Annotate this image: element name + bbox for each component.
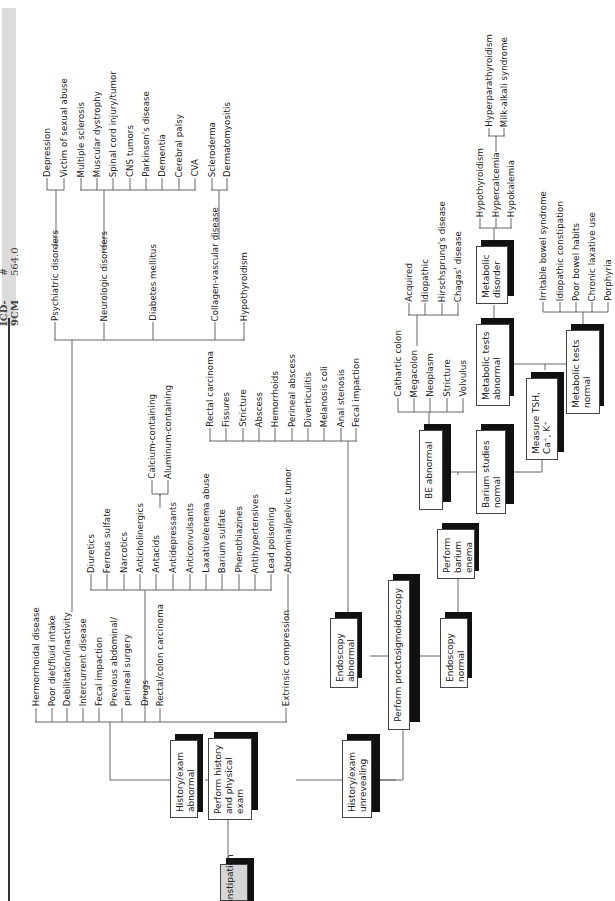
endoscopy-finding-label: Rectal carcinoma — [205, 351, 215, 427]
barium-normal-box[interactable]: Barium studies normal — [476, 430, 514, 514]
collagen-label: Scleroderma — [207, 122, 217, 177]
normal-cause-label: Poor bowel habits — [571, 223, 581, 301]
normal-cause-label: Chronic laxative use — [587, 212, 597, 301]
be-abnormal-box[interactable]: BE abnormal — [419, 430, 453, 510]
cause-label: Extrinsic compression — [281, 610, 291, 706]
metabolic-normal-label: Metabolic tests normal — [566, 330, 600, 414]
metabolic-disorder-box[interactable]: Metabolic disorder — [476, 246, 514, 304]
collagen-label: Dermatomyositis — [222, 102, 232, 177]
constipation-label: Constipation — [220, 864, 248, 901]
cause-label: Previous abdominal/ — [109, 617, 119, 706]
endoscopy-finding-label: Perineal abscess — [287, 354, 297, 427]
drug-label: Antihypertensives — [250, 494, 260, 573]
neurologic-label: CNS tumors — [125, 125, 135, 177]
drug-label: Diuretics — [86, 534, 96, 573]
drug-label: Anticholinergics — [135, 503, 145, 573]
cause-label: Poor diet/fluid intake — [47, 615, 57, 706]
endoscopy-abnormal-label: Endoscopy abnormal — [330, 618, 358, 688]
measure-tsh-box[interactable]: Measure TSH, Ca⁺, K⁺ — [526, 378, 564, 460]
history-abnormal-label: History/exam abnormal — [170, 740, 198, 818]
neurologic-label: Multiple sclerosis — [76, 102, 86, 178]
normal-cause-label: Porphyria — [603, 259, 613, 301]
megacolon-label: Idiopathic — [420, 259, 430, 302]
be-finding-label: Volvulus — [458, 360, 468, 397]
endoscopy-normal-label: Endoscopy normal — [440, 618, 468, 688]
be-finding-label: Cathartic colon — [393, 330, 403, 397]
antacid-label: Calcium-containing — [147, 394, 157, 479]
systemic-label: Hypothyroidism — [239, 252, 249, 321]
drug-label: Anticonvulsants — [185, 503, 195, 573]
endoscopy-finding-label: Fecal impaction — [351, 358, 361, 427]
psychiatric-label: Depression — [42, 128, 52, 177]
neurologic-label: Dementia — [157, 134, 167, 177]
endoscopy-finding-label: Stricture — [238, 389, 248, 427]
drug-label: Phenothiazines — [234, 506, 244, 573]
be-abnormal-label: BE abnormal — [419, 430, 443, 510]
be-finding-label: Neoplasm — [425, 353, 435, 397]
neurologic-label: Spinal cord injury/tumor — [108, 71, 118, 177]
endoscopy-finding-label: Anal stenosis — [336, 369, 346, 427]
cause-label: perineal surgery — [122, 634, 132, 706]
endoscopy-finding-label: Fissures — [221, 392, 231, 427]
hypercalcemia-cause: Hyperparathyroidism — [484, 34, 494, 127]
drug-label: Antidepressants — [168, 502, 178, 573]
systemic-label: Psychiatric disorders — [50, 230, 60, 321]
normal-cause-label: Idiopathic constipation — [555, 201, 565, 301]
cause-label: Rectal/colon carcinoma — [155, 604, 165, 706]
metabolic-disorder-item: Hypokalemia — [506, 160, 516, 217]
be-finding-label: Stricture — [442, 359, 452, 397]
hypercalcemia-cause: Milk-alkali syndrome — [499, 37, 509, 127]
drug-label: Lead poisoning — [266, 507, 276, 573]
metabolic-disorder-item: Hypothyroidism — [475, 148, 485, 217]
endoscopy-finding-label: Diverticulitis — [303, 372, 313, 427]
megacolon-label: Chagas' disease — [453, 231, 463, 302]
metabolic-abnormal-box[interactable]: Metabolic tests abnormal — [476, 324, 514, 406]
proctosigmoidoscopy-label: Perform proctosigmoidoscopy — [388, 580, 410, 730]
metabolic-disorder-label: Metabolic disorder — [476, 246, 508, 304]
endoscopy-normal-box[interactable]: Endoscopy normal — [440, 618, 474, 688]
cause-label: Hermorrhoidal disease — [31, 607, 41, 706]
endoscopy-finding-label: Melanosis coli — [319, 366, 329, 427]
barium-enema-label: Perform barium enema — [437, 529, 475, 579]
neurologic-label: Muscular dystrophy — [92, 91, 102, 177]
neurologic-label: Parkinson's disease — [141, 91, 151, 177]
drug-label: Laxative/enema abuse — [201, 473, 211, 573]
cause-label: Fecal impaction — [94, 637, 104, 706]
normal-cause-label: Irritable bowel syndrome — [538, 191, 548, 301]
megacolon-label: Acquired — [404, 263, 414, 302]
be-finding-label: Megacolon — [409, 350, 419, 397]
barium-normal-label: Barium studies normal — [476, 430, 506, 514]
drug-label: Narcotics — [119, 532, 129, 573]
drug-label: Antacids — [151, 535, 161, 573]
endoscopy-finding-label: Abscess — [254, 392, 264, 427]
history-physical-box[interactable]: Perform history and physical exam — [208, 738, 254, 820]
metabolic-normal-box[interactable]: Metabolic tests normal — [566, 330, 606, 414]
cause-label: Intercurrent disease — [78, 618, 88, 706]
endoscopy-finding-label: Hemorrhoids — [270, 371, 280, 427]
systemic-label: Collagen-vascular disease — [210, 207, 220, 321]
cause-label: Debilitation/inactivity — [62, 612, 72, 706]
drug-label: Ferrous sulfate — [102, 508, 112, 573]
measure-tsh-label: Measure TSH, Ca⁺, K⁺ — [526, 378, 558, 460]
antacid-label: Aluminum-containing — [163, 385, 173, 479]
drug-label: Barium sulfate — [217, 509, 227, 573]
systemic-label: Neurologic disorders — [99, 231, 109, 321]
neurologic-label: CVA — [190, 159, 200, 177]
neurologic-label: Cerebral palsy — [174, 114, 184, 177]
endoscopy-abnormal-box[interactable]: Endoscopy abnormal — [330, 618, 364, 688]
history-unrevealing-box[interactable]: History/exam unrevealing — [342, 740, 380, 818]
systemic-label: Diabetes mellitus — [148, 244, 158, 321]
history-physical-label: Perform history and physical exam — [208, 738, 252, 820]
cause-label: Drugs — [140, 680, 150, 706]
constipation-box[interactable]: Constipation — [220, 864, 254, 901]
extrinsic-label: Abdominal/pelvic tumor — [283, 468, 293, 573]
metabolic-abnormal-label: Metabolic tests abnormal — [476, 324, 510, 406]
history-unrevealing-label: History/exam unrevealing — [342, 740, 372, 818]
megacolon-label: Hirschsprung's disease — [437, 201, 447, 302]
barium-enema-box[interactable]: Perform barium enema — [437, 529, 479, 579]
psychiatric-label: Victim of sexual abuse — [59, 78, 69, 177]
proctosigmoidoscopy-box[interactable]: Perform proctosigmoidoscopy — [388, 580, 422, 730]
metabolic-disorder-item: Hypercalcemia — [491, 152, 501, 217]
history-abnormal-box[interactable]: History/exam abnormal — [170, 740, 204, 818]
